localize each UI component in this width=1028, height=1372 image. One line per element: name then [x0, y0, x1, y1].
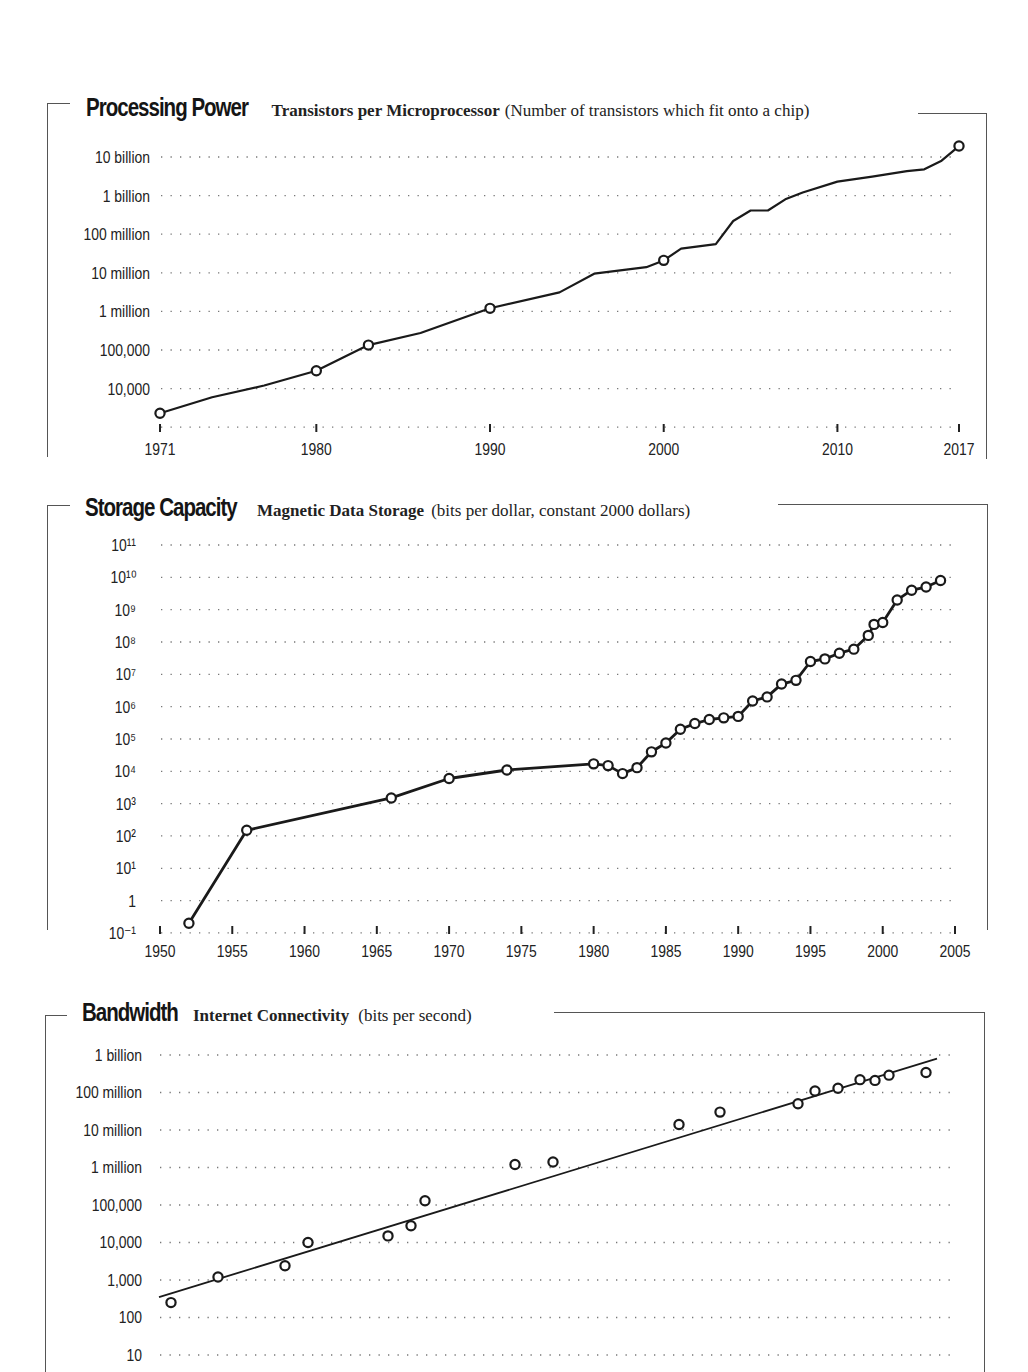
- x-tick-label: 1955: [217, 942, 248, 961]
- y-tick-label: 100,000: [92, 1196, 143, 1215]
- data-point-marker: [632, 763, 641, 772]
- data-point-marker: [184, 919, 193, 928]
- bandwidth-chart: 1 billion100 million10 million1 million1…: [75, 1046, 958, 1365]
- data-point-marker: [387, 793, 396, 802]
- data-point-marker: [793, 1099, 802, 1108]
- data-point-marker: [690, 719, 699, 728]
- x-tick-label: 1975: [506, 942, 537, 961]
- x-tick-label: 1985: [650, 942, 681, 961]
- x-tick-label: 1990: [475, 440, 506, 459]
- data-point-marker: [312, 366, 321, 375]
- data-point-marker: [870, 1076, 879, 1085]
- y-tick-label: 100 million: [83, 225, 150, 244]
- x-tick-label: 1980: [578, 942, 609, 961]
- data-point-marker: [603, 761, 612, 770]
- x-tick-label: 2017: [944, 440, 975, 459]
- data-point-marker: [835, 649, 844, 658]
- data-point-marker: [864, 631, 873, 640]
- data-point-marker: [954, 141, 963, 150]
- data-point-marker: [485, 304, 494, 313]
- data-point-marker: [166, 1298, 175, 1307]
- storage-capacity-chart: 10¹¹10¹⁰10⁹10⁸10⁷10⁶10⁵10⁴10³10²10¹110⁻¹…: [109, 536, 971, 961]
- x-tick-label: 1980: [301, 440, 332, 459]
- y-tick-label: 1 billion: [103, 186, 150, 205]
- transistor-trend-line: [160, 146, 959, 413]
- data-point-marker: [719, 713, 728, 722]
- data-point-marker: [406, 1221, 415, 1230]
- data-point-marker: [213, 1272, 222, 1281]
- data-point-marker: [364, 340, 373, 349]
- data-point-marker: [777, 679, 786, 688]
- data-point-marker: [849, 645, 858, 654]
- storage-trend-line: [189, 581, 941, 924]
- data-point-marker: [806, 657, 815, 666]
- y-tick-label: 100 million: [75, 1083, 142, 1102]
- data-point-marker: [820, 654, 829, 663]
- data-point-marker: [280, 1261, 289, 1270]
- data-point-marker: [510, 1160, 519, 1169]
- y-tick-label: 10 million: [91, 263, 150, 282]
- y-tick-label: 10¹¹: [111, 536, 136, 555]
- data-point-marker: [907, 586, 916, 595]
- data-point-marker: [855, 1075, 864, 1084]
- y-tick-label: 10 billion: [95, 148, 150, 167]
- y-tick-label: 10³: [116, 794, 136, 813]
- data-point-marker: [762, 692, 771, 701]
- y-tick-label: 1,000: [107, 1271, 142, 1290]
- data-point-marker: [303, 1238, 312, 1247]
- y-tick-label: 1: [128, 891, 136, 910]
- data-point-marker: [242, 826, 251, 835]
- y-tick-label: 10,000: [99, 1233, 142, 1252]
- y-tick-label: 10⁹: [115, 600, 136, 619]
- data-point-marker: [791, 676, 800, 685]
- data-point-marker: [936, 576, 945, 585]
- x-tick-label: 1950: [145, 942, 176, 961]
- data-point-marker: [921, 1068, 930, 1077]
- y-tick-label: 10¹⁰: [110, 568, 136, 587]
- y-tick-label: 10 million: [83, 1121, 142, 1140]
- data-point-marker: [589, 759, 598, 768]
- x-tick-label: 1970: [434, 942, 465, 961]
- x-tick-label: 2000: [867, 942, 898, 961]
- y-tick-label: 100,000: [100, 341, 151, 360]
- data-point-marker: [674, 1120, 683, 1129]
- charts-svg: 10 billion1 billion100 million10 million…: [0, 0, 1028, 1372]
- data-point-marker: [383, 1231, 392, 1240]
- y-tick-label: 10⁷: [115, 665, 136, 684]
- data-point-marker: [705, 715, 714, 724]
- data-point-marker: [502, 765, 511, 774]
- data-point-marker: [748, 696, 757, 705]
- y-tick-label: 10,000: [107, 379, 150, 398]
- x-tick-label: 2010: [822, 440, 853, 459]
- data-point-marker: [734, 712, 743, 721]
- data-point-marker: [444, 774, 453, 783]
- data-point-marker: [420, 1196, 429, 1205]
- y-tick-label: 1 billion: [95, 1046, 142, 1065]
- x-tick-label: 1990: [723, 942, 754, 961]
- y-tick-label: 10¹: [116, 859, 136, 878]
- data-point-marker: [921, 582, 930, 591]
- x-tick-label: 2005: [940, 942, 971, 961]
- bandwidth-trend-line: [159, 1059, 937, 1297]
- x-tick-label: 1971: [145, 440, 176, 459]
- y-tick-label: 10²: [116, 827, 136, 846]
- data-point-marker: [659, 256, 668, 265]
- y-tick-label: 10⁶: [115, 697, 136, 716]
- x-tick-label: 1965: [361, 942, 392, 961]
- data-point-marker: [676, 725, 685, 734]
- data-point-marker: [833, 1084, 842, 1093]
- y-tick-label: 10: [127, 1346, 143, 1365]
- data-point-marker: [155, 409, 164, 418]
- data-point-marker: [661, 738, 670, 747]
- processing-power-chart: 10 billion1 billion100 million10 million…: [83, 141, 974, 458]
- x-tick-label: 2000: [648, 440, 679, 459]
- y-tick-label: 1 million: [91, 1158, 142, 1177]
- x-tick-label: 1995: [795, 942, 826, 961]
- y-tick-label: 100: [119, 1308, 143, 1327]
- y-tick-label: 10⁸: [115, 633, 136, 652]
- y-tick-label: 10⁵: [115, 730, 136, 749]
- data-point-marker: [548, 1157, 557, 1166]
- data-point-marker: [884, 1071, 893, 1080]
- x-tick-label: 1960: [289, 942, 320, 961]
- data-point-marker: [618, 769, 627, 778]
